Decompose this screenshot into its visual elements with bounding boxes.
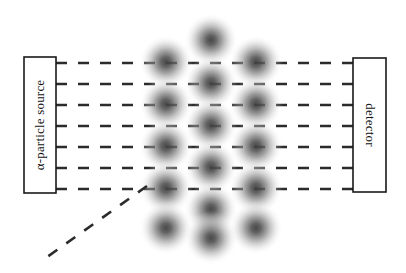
diagram-canvas: α-particle source detector: [0, 0, 406, 273]
detector-label: detector: [353, 58, 386, 192]
scattering-diagram: [0, 0, 406, 273]
atom-lattice: [139, 13, 283, 265]
atom-16: [229, 201, 283, 255]
detector-label-text: detector: [362, 103, 378, 146]
source-label-text: α-particle source: [32, 80, 48, 171]
atom-11: [184, 211, 238, 265]
alpha-particle-source-label: α-particle source: [24, 57, 56, 193]
